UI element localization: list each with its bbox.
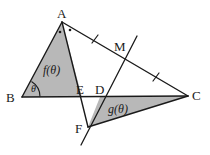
tick-MC [153, 73, 159, 81]
vertex-label-B: B [6, 91, 15, 104]
vertex-label-A: A [57, 7, 66, 20]
angle-dot-left-icon [59, 31, 62, 34]
vertex-label-C: C [192, 89, 201, 102]
line-through-F-D-M [81, 36, 137, 145]
region-label-f-theta: f(θ) [43, 64, 60, 76]
geometry-canvas [0, 0, 210, 155]
segment-BC [22, 96, 188, 97]
angle-dot-right-icon [69, 29, 72, 32]
geometry-figure: A B C D E F M f(θ) g(θ) θ [0, 0, 210, 155]
vertex-label-D: D [95, 83, 104, 96]
region-label-g-theta: g(θ) [108, 103, 128, 115]
angle-label-theta: θ [31, 84, 36, 94]
vertex-label-F: F [75, 122, 82, 135]
vertex-label-E: E [76, 83, 84, 96]
vertex-label-M: M [114, 40, 126, 53]
